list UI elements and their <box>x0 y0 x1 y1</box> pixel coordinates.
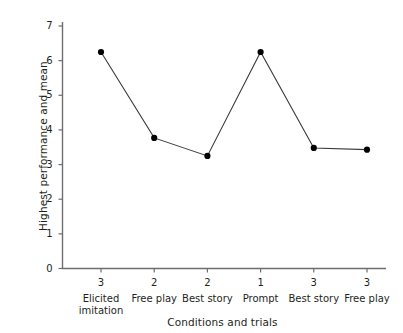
x-tick-trial-number: 1 <box>241 278 281 288</box>
x-tick-trial-number: 3 <box>347 278 387 288</box>
y-tick-label: 1 <box>37 229 53 239</box>
y-tick-label: 7 <box>37 21 53 31</box>
x-category-line: Free play <box>329 293 403 306</box>
data-point <box>151 135 157 141</box>
x-tick-trial-number: 2 <box>187 278 227 288</box>
line-chart: Highest performance and mean 76543210 32… <box>0 0 403 333</box>
y-tick-label: 2 <box>37 194 53 204</box>
y-tick-label: 6 <box>37 56 53 66</box>
x-tick-trial-number: 2 <box>134 278 174 288</box>
y-tick-label: 3 <box>37 160 53 170</box>
x-tick-trial-number: 3 <box>81 278 121 288</box>
data-point <box>311 145 317 151</box>
x-axis-title: Conditions and trials <box>62 316 383 328</box>
data-point <box>364 147 370 153</box>
data-point <box>204 153 210 159</box>
data-series-line <box>101 52 367 156</box>
y-tick-label: 5 <box>37 90 53 100</box>
x-category-label: Free play <box>329 293 403 306</box>
data-point <box>258 49 264 55</box>
x-tick-trial-number: 3 <box>294 278 334 288</box>
data-point <box>98 49 104 55</box>
y-tick-label: 0 <box>37 264 53 274</box>
y-tick-label: 4 <box>37 125 53 135</box>
